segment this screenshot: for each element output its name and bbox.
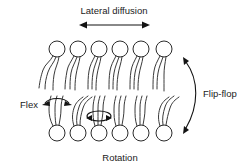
lipid-bilayer-diagram: Lateral diffusion <box>0 0 252 166</box>
lipid-head <box>91 125 107 141</box>
lipid-upper-6 <box>153 41 172 91</box>
figure-canvas: Lateral diffusion <box>0 0 252 166</box>
lipid-tail-a <box>49 96 53 126</box>
lipid-tail-a <box>109 56 116 89</box>
upper-leaflet <box>39 41 172 91</box>
lipid-head <box>70 125 86 141</box>
lipid-tail-c <box>140 96 142 125</box>
lipid-tail-c <box>55 96 57 125</box>
lipid-lower-6 <box>156 96 179 141</box>
lipid-head <box>49 125 65 141</box>
lipid-head <box>49 41 65 57</box>
lipid-tail-b <box>122 96 126 125</box>
lipid-head <box>112 41 128 57</box>
lateral-diffusion-arrow <box>79 22 150 29</box>
lipid-tail-c <box>119 96 121 125</box>
lipid-tail-a <box>130 56 137 89</box>
lipid-tail-b <box>164 57 166 91</box>
lipid-lower-5 <box>133 96 149 141</box>
lipid-upper-3 <box>88 41 107 90</box>
lipid-lower-4 <box>112 96 128 141</box>
rotation-label: Rotation <box>102 152 137 163</box>
flip-flop-arrow-head-top <box>183 57 189 65</box>
lipid-tail-b <box>59 96 63 125</box>
lipid-tail-a <box>39 56 53 88</box>
lateral-diffusion-label: Lateral diffusion <box>81 5 148 16</box>
lipid-head <box>112 125 128 141</box>
lipid-upper-5 <box>130 41 149 90</box>
flex-label: Flex <box>20 99 38 110</box>
lipid-upper-4 <box>109 41 128 90</box>
lipid-head <box>91 41 107 57</box>
flip-flop-annotation: Flip-flop <box>183 57 237 134</box>
lipid-lower-3 <box>91 96 107 141</box>
lipid-tail-a <box>88 56 95 89</box>
lateral-diffusion-annotation: Lateral diffusion <box>79 5 150 29</box>
lateral-arrow-head-left <box>79 22 87 29</box>
lateral-arrow-head-right <box>142 22 150 29</box>
lipid-upper-2 <box>65 41 86 90</box>
lipid-tail-a <box>135 96 137 126</box>
lipid-head <box>156 125 172 141</box>
lipid-tail-a <box>153 56 160 89</box>
lipid-head <box>133 125 149 141</box>
lipid-head <box>133 41 149 57</box>
lipid-head <box>156 41 172 57</box>
lipid-tail-b <box>143 96 147 125</box>
flip-flop-arc <box>186 62 196 128</box>
lipid-lower-1 <box>49 96 65 141</box>
lipid-head <box>70 41 86 57</box>
lipid-upper-1 <box>39 41 65 90</box>
lipid-tail-a <box>114 96 116 126</box>
flex-annotation: Flex <box>20 99 72 111</box>
lipid-tail-a <box>65 56 74 89</box>
flip-flop-label: Flip-flop <box>203 88 237 99</box>
lipid-tail-b <box>75 57 80 90</box>
lipid-tail-c <box>157 57 163 89</box>
